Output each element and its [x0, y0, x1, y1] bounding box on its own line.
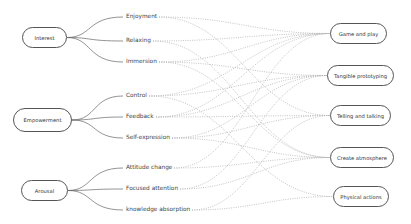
target-label: Game and play — [339, 31, 378, 37]
target-node-create-atmosphere: Create atmosphere — [330, 147, 394, 168]
item-control: Control — [126, 93, 147, 99]
item-self-expression: Self-expression — [126, 135, 170, 141]
item-enjoyment: Enjoyment — [126, 14, 157, 20]
item-relaxing: Relaxing — [126, 38, 151, 44]
category-node-empowerment: Empowerment — [13, 108, 72, 132]
item-knowledge-absorption: knowledge absorption — [126, 207, 190, 213]
mapping-diagram: Interest Empowerment Arousal Enjoyment R… — [0, 0, 411, 224]
target-label: Create atmosphere — [337, 155, 387, 161]
category-label: Arousal — [35, 188, 54, 194]
item-focused-attention: Focused attention — [126, 186, 178, 192]
target-label: Tangible prototyping — [334, 73, 387, 79]
target-node-game-and-play: Game and play — [330, 23, 387, 44]
category-label: Interest — [35, 35, 55, 41]
target-node-tangible-prototyping: Tangible prototyping — [327, 65, 394, 86]
category-label: Empowerment — [24, 117, 62, 123]
target-node-physical-actions: Physical actions — [333, 186, 389, 207]
target-label: Telling and talking — [337, 113, 384, 119]
item-feedback: Feedback — [126, 114, 154, 120]
item-immersion: Immersion — [126, 59, 157, 65]
item-attitude-change: Attitude change — [126, 165, 172, 171]
category-node-interest: Interest — [22, 27, 67, 48]
target-label: Physical actions — [340, 194, 381, 200]
category-node-arousal: Arousal — [21, 180, 68, 201]
target-node-telling-and-talking: Telling and talking — [330, 105, 391, 126]
